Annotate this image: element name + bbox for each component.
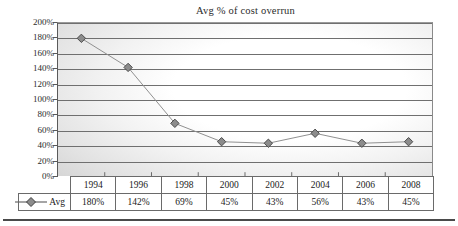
table-header-cell: 2008 (388, 177, 433, 194)
y-tick-label: 140% (14, 63, 54, 73)
y-axis-tick-labels: 0%20%40%60%80%100%120%140%160%180%200% (14, 22, 54, 176)
legend-label-avg: Avg (49, 197, 67, 207)
table-header-cell: 1994 (71, 177, 116, 194)
table-value-cell: 45% (388, 194, 433, 211)
diamond-marker-icon (14, 196, 48, 208)
legend-entry-avg: Avg (19, 194, 71, 211)
table-header-cell: 2000 (207, 177, 252, 194)
series-line (81, 38, 408, 143)
plot-area (57, 22, 433, 176)
data-point-marker (358, 139, 366, 147)
data-point-marker (311, 129, 319, 137)
y-tick-label: 120% (14, 79, 54, 89)
table-header-cell: 2002 (252, 177, 297, 194)
table-value-cell: 142% (116, 194, 161, 211)
table-value-cell: 43% (252, 194, 297, 211)
y-tick-label: 60% (14, 125, 54, 135)
table-value-cell: 180% (71, 194, 116, 211)
y-tick-label: 40% (14, 140, 54, 150)
bottom-divider (3, 219, 455, 221)
data-point-marker (217, 138, 225, 146)
table-value-cell: 45% (207, 194, 252, 211)
data-point-marker (264, 139, 272, 147)
table-header-cell: 1996 (116, 177, 161, 194)
data-point-marker (404, 138, 412, 146)
table-header-cell: 2006 (343, 177, 388, 194)
table-corner-blank (19, 177, 71, 194)
y-tick-label: 160% (14, 48, 54, 58)
y-tick-label: 80% (14, 109, 54, 119)
series-avg (58, 23, 432, 176)
data-point-marker (77, 34, 85, 42)
table-header-cell: 2004 (297, 177, 342, 194)
chart-figure: Avg % of cost overrun 0%20%40%60%80%100%… (0, 0, 458, 226)
table-value-cell: 69% (161, 194, 206, 211)
y-tick-label: 20% (14, 156, 54, 166)
data-table: 19941996199820002002200420062008 Avg 180… (18, 176, 434, 211)
table-value-cell: 43% (343, 194, 388, 211)
y-tick-label: 180% (14, 32, 54, 42)
table-row-headers: 19941996199820002002200420062008 (19, 177, 434, 194)
chart-title: Avg % of cost overrun (58, 5, 433, 16)
table-row-avg: Avg 180%142%69%45%43%56%43%45% (19, 194, 434, 211)
y-tick-label: 200% (14, 17, 54, 27)
y-tick-label: 100% (14, 94, 54, 104)
table-value-cell: 56% (297, 194, 342, 211)
table-header-cell: 1998 (161, 177, 206, 194)
